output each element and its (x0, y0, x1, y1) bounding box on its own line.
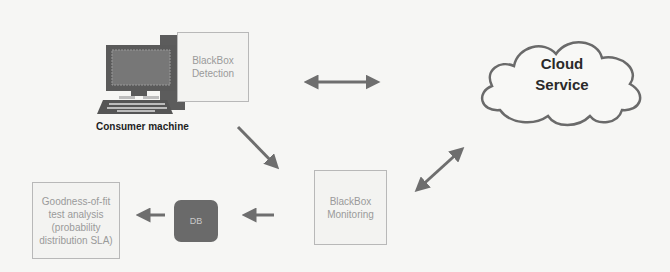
blackbox-detection-line1: BlackBox (192, 54, 234, 67)
arrow-monitoring-cloud (418, 150, 461, 189)
blackbox-monitoring-line1: BlackBox (327, 195, 374, 208)
analysis-line3: (probability (39, 221, 112, 234)
cloud-service-line2: Service (522, 74, 602, 95)
cloud-service-label: Cloud Service (522, 53, 602, 95)
blackbox-monitoring-box: BlackBox Monitoring (314, 170, 387, 245)
analysis-line4: distribution SLA) (39, 234, 112, 247)
blackbox-monitoring-line2: Monitoring (327, 208, 374, 221)
arrow-consumer-monitoring (238, 127, 276, 166)
blackbox-detection-line2: Detection (192, 67, 234, 80)
desktop-computer-icon (95, 38, 190, 116)
database-icon: DB (174, 200, 218, 242)
database-label: DB (190, 216, 203, 226)
goodness-of-fit-box: Goodness-of-fit test analysis (probabili… (32, 182, 120, 259)
consumer-machine-label: Consumer machine (96, 121, 189, 132)
analysis-line1: Goodness-of-fit (39, 195, 112, 208)
analysis-line2: test analysis (39, 208, 112, 221)
cloud-service-line1: Cloud (522, 53, 602, 74)
